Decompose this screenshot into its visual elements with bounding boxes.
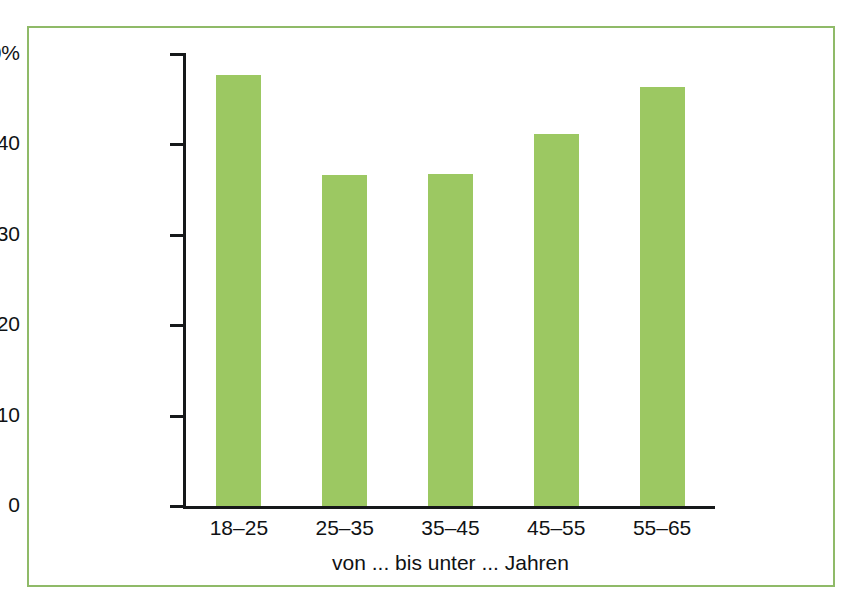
y-tick-mark xyxy=(170,143,186,146)
x-tick-label: 45–55 xyxy=(503,516,609,540)
y-tick-label: 30 xyxy=(0,223,20,245)
bar xyxy=(322,175,367,506)
y-tick-label: 10 xyxy=(0,404,20,426)
y-tick-mark xyxy=(170,234,186,237)
y-tick-label: 20 xyxy=(0,313,20,335)
x-axis-title: von ... bis unter ... Jahren xyxy=(186,551,715,575)
plot-area: 01020304050% 18–2525–3535–4545–5555–65 v… xyxy=(29,28,833,585)
y-tick-label: 0 xyxy=(8,494,20,516)
bar xyxy=(640,87,685,506)
x-tick-label: 18–25 xyxy=(186,516,292,540)
y-tick-mark xyxy=(170,324,186,327)
x-tick-label: 25–35 xyxy=(292,516,398,540)
bar xyxy=(216,75,261,506)
bars-group xyxy=(186,28,715,506)
chart-figure: 01020304050% 18–2525–3535–4545–5555–65 v… xyxy=(27,26,835,587)
y-tick-label: 40 xyxy=(0,132,20,154)
y-tick-label: 50% xyxy=(0,42,20,64)
y-tick-mark xyxy=(170,415,186,418)
bar xyxy=(534,134,579,506)
x-tick-label: 35–45 xyxy=(398,516,504,540)
x-axis-line xyxy=(183,506,715,509)
y-tick-mark xyxy=(170,53,186,56)
y-tick-mark xyxy=(170,505,186,508)
x-tick-label: 55–65 xyxy=(609,516,715,540)
bar xyxy=(428,174,473,506)
